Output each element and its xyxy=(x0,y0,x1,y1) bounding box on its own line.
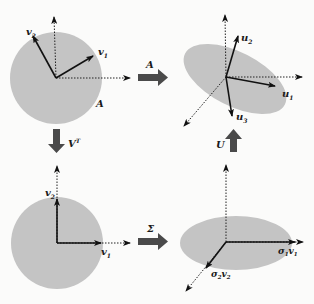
label-VT: VT xyxy=(68,137,81,149)
panel-top-left: v1 v2 A xyxy=(10,17,130,124)
svd-diagram: v1 v2 A A u1 u2 u3 VT xyxy=(0,0,314,304)
arrow-right-icon xyxy=(138,69,168,86)
label-Sigma: Σ xyxy=(146,223,155,234)
label-u2: u2 xyxy=(241,32,252,45)
panel-top-right: u1 u2 u3 xyxy=(173,15,302,128)
panel-bottom-left: v2 v1 xyxy=(11,166,130,289)
label-shape-A: A xyxy=(95,98,104,109)
label-v2: v2 xyxy=(26,26,36,39)
arrow-right-icon xyxy=(138,233,168,250)
arrow-down-icon xyxy=(48,129,65,153)
transform-arrow-a: A xyxy=(138,59,168,86)
panel-bottom-right: σ1v1 σ2v2 xyxy=(180,165,303,291)
arrow-up-icon xyxy=(225,129,242,152)
label-v1: v1 xyxy=(98,46,108,59)
label-u3: u3 xyxy=(236,111,247,124)
label-sigma1-v1: σ1v1 xyxy=(278,246,298,257)
axis-aligned-ellipse xyxy=(180,216,292,270)
label-v1: v1 xyxy=(101,246,111,259)
label-sigma2-v2: σ2v2 xyxy=(211,269,231,280)
transform-arrow-sigma: Σ xyxy=(138,223,168,250)
transform-arrow-vt: VT xyxy=(48,129,81,153)
label-v2: v2 xyxy=(45,187,55,200)
label-U: U xyxy=(216,139,226,150)
transform-arrow-u: U xyxy=(216,129,242,152)
label-A: A xyxy=(145,59,154,70)
